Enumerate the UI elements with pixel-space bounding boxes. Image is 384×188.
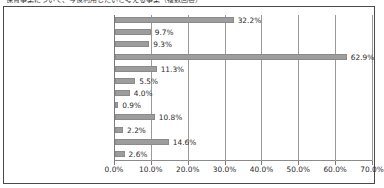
bar: [115, 17, 234, 23]
gridline: [372, 15, 373, 161]
bar-row: 無回答2.6%: [114, 149, 372, 161]
bar-row: 居宅訪問型保育4.0%: [114, 88, 372, 100]
x-axis-tick-label: 0.0%: [105, 165, 124, 174]
bar-value-label: 4.0%: [134, 88, 153, 100]
bar: [115, 127, 123, 133]
bar-row: 特に利用したい事業はない14.6%: [114, 137, 372, 149]
bar-row: ファミリー・サポート・センター10.8%: [114, 112, 372, 124]
bar: [115, 139, 169, 145]
bar: [115, 90, 130, 96]
bar-value-label: 11.3%: [161, 64, 184, 76]
bar-value-label: 2.6%: [129, 149, 148, 161]
bar-value-label: 10.8%: [159, 112, 182, 124]
x-axis-tick-label: 10.0%: [139, 165, 162, 174]
bar: [115, 29, 151, 35]
bar-value-label: 62.9%: [351, 52, 374, 64]
x-axis-tick-label: 30.0%: [213, 165, 236, 174]
clipped-title-text: 保育事業について、今後利用したいと考える事業（複数回答）: [6, 0, 306, 3]
bar-value-label: 32.2%: [238, 15, 261, 27]
bar-value-label: 5.5%: [139, 76, 158, 88]
bar: [115, 66, 157, 72]
bar: [115, 102, 118, 108]
bar-row: 事業所内保育施設11.3%: [114, 64, 372, 76]
x-axis-tick-label: 60.0%: [323, 165, 346, 174]
bar-row: その他2.2%: [114, 125, 372, 137]
bar-value-label: 9.3%: [153, 39, 172, 51]
chart-frame: 0.0%10.0%20.0%30.0%40.0%50.0%60.0%70.0%認…: [3, 6, 375, 184]
bar: [115, 41, 149, 47]
x-axis-tick-label: 20.0%: [176, 165, 199, 174]
bar-row: 認定こども園62.9%: [114, 52, 372, 64]
x-axis-tick-label: 50.0%: [287, 165, 310, 174]
x-axis-tick-label: 40.0%: [250, 165, 273, 174]
bar-value-label: 9.7%: [155, 27, 174, 39]
bar-row: その他の認可外の保育施設0.9%: [114, 100, 372, 112]
bar-row: 幼稚園9.7%: [114, 27, 372, 39]
bar-row: 家庭的保育5.5%: [114, 76, 372, 88]
bar-value-label: 0.9%: [122, 100, 141, 112]
bar: [115, 151, 125, 157]
bar-value-label: 2.2%: [127, 125, 146, 137]
plot-area: 0.0%10.0%20.0%30.0%40.0%50.0%60.0%70.0%認…: [114, 15, 372, 161]
x-axis-tick-label: 70.0%: [360, 165, 383, 174]
bar: [115, 78, 135, 84]
bar: [115, 54, 347, 60]
bar-value-label: 14.6%: [173, 137, 196, 149]
bar-row: 認可保育園32.2%: [114, 15, 372, 27]
bar-row: 幼稚園の預かり保育9.3%: [114, 39, 372, 51]
bar: [115, 114, 155, 120]
